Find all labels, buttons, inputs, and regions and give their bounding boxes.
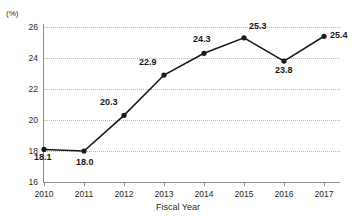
data-point-label: 24.3 (193, 34, 211, 44)
y-axis-tick-label: 20 (12, 116, 38, 125)
gridline (44, 89, 340, 90)
gridline (44, 58, 340, 59)
gridline (44, 120, 340, 121)
y-axis-tick-label: 22 (12, 85, 38, 94)
x-axis-tick-label: 2014 (184, 189, 224, 199)
x-axis-tick-label: 2016 (264, 189, 304, 199)
x-axis-tick-mark (164, 182, 165, 186)
data-point-label: 25.4 (330, 30, 348, 40)
y-axis-unit-label: (%) (6, 9, 18, 18)
gridline (44, 151, 340, 152)
x-axis-title: Fiscal Year (0, 202, 356, 212)
y-axis-tick-label: 26 (12, 23, 38, 32)
data-point-label: 25.3 (249, 21, 267, 31)
x-axis-tick-mark (284, 182, 285, 186)
x-axis-tick-mark (244, 182, 245, 186)
y-axis-tick-label: 16 (12, 178, 38, 187)
data-point-label: 18.0 (76, 157, 94, 167)
x-axis-line (43, 182, 340, 183)
data-point-label: 18.1 (34, 152, 52, 162)
x-axis-tick-mark (124, 182, 125, 186)
x-axis-tick-mark (324, 182, 325, 186)
x-axis-tick-label: 2012 (104, 189, 144, 199)
x-axis-tick-label: 2010 (24, 189, 64, 199)
x-axis-tick-label: 2017 (304, 189, 344, 199)
data-point-label: 22.9 (139, 57, 157, 67)
x-axis-tick-label: 2013 (144, 189, 184, 199)
x-axis-tick-label: 2015 (224, 189, 264, 199)
x-axis-tick-mark (204, 182, 205, 186)
x-axis-tick-mark (44, 182, 45, 186)
x-axis-tick-label: 2011 (64, 189, 104, 199)
data-point-label: 20.3 (100, 97, 118, 107)
y-axis-tick-label: 24 (12, 54, 38, 63)
data-point-label: 23.8 (275, 65, 293, 75)
gridline (44, 27, 340, 28)
line-chart: (%) 161820222426 20102011201220132014201… (0, 0, 356, 219)
x-axis-tick-mark (84, 182, 85, 186)
